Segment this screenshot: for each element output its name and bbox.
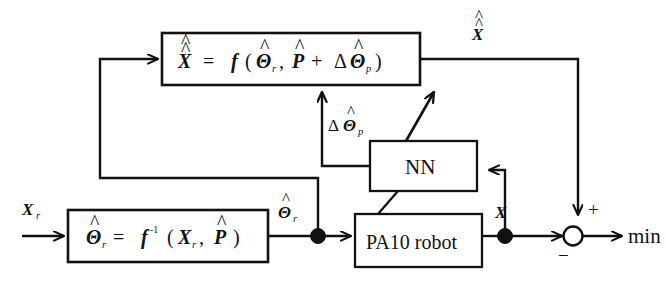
node-dot-theta-hat-r [311,229,326,244]
inverse-f-exponent: -1 [150,224,158,235]
forward-lhs-hat-inner: ^ [181,38,191,60]
forward-equals: = [203,50,214,72]
signal-delta-symbol: Δ [328,116,339,135]
neural-network-label: NN [405,155,435,179]
inverse-close-paren: ) [233,226,240,249]
forward-plus: + [311,50,322,72]
inverse-equals: = [113,226,124,248]
inverse-lhs-hat: ^ [90,211,100,233]
forward-open-paren: ( [245,50,252,73]
signal-xr-symbol: X [21,200,34,219]
pa10-robot-label: PA10 robot [366,231,457,253]
inverse-open-paren: ( [167,226,174,249]
signal-theta-p-hat: ^ [347,102,355,121]
forward-p-hat: ^ [295,35,305,57]
objective-output-label: min [628,224,661,248]
signal-theta-p-subscript: p [357,126,363,137]
signal-label-xr: X r [21,200,41,221]
signal-theta-r-subscript: r [293,213,298,224]
inverse-p-hat: ^ [217,211,227,233]
signal-label-theta-hat-r: Θ ^ r [278,189,298,224]
signal-xr-subscript: r [36,210,41,221]
forward-theta-p-hat: ^ [354,35,364,57]
signal-label-x-double-hat: X ^ ^ [471,6,484,44]
inverse-comma: , [199,226,204,248]
signal-xhh-hat-inner: ^ [475,14,483,33]
forward-theta-r-hat: ^ [260,35,270,57]
wire-nn-to-robot-diagonal [378,191,398,214]
signal-label-x-measured: X [494,203,507,222]
forward-delta: Δ [334,50,347,72]
summing-junction-circle[interactable] [564,227,583,246]
forward-comma: , [279,50,284,72]
forward-theta-p-subscript: p [365,63,371,74]
diagram-svg: X ^ ^ = f ( Θ ^ r , P ^ + Δ Θ ^ p ) Θ ^ … [0,0,666,290]
node-dot-x [498,229,513,244]
signal-label-delta-theta-hat-p: Δ Θ ^ p [328,102,363,137]
signal-theta-r-hat: ^ [282,189,290,208]
wire-nn-update-diagonal [406,92,434,141]
forward-close-paren: ) [375,50,382,73]
block-diagram-canvas: X ^ ^ = f ( Θ ^ r , P ^ + Δ Θ ^ p ) Θ ^ … [0,0,666,290]
summing-junction-plus-sign: + [588,199,599,220]
inverse-xr-symbol: X [177,226,192,248]
summing-junction-minus-sign: − [558,245,569,266]
